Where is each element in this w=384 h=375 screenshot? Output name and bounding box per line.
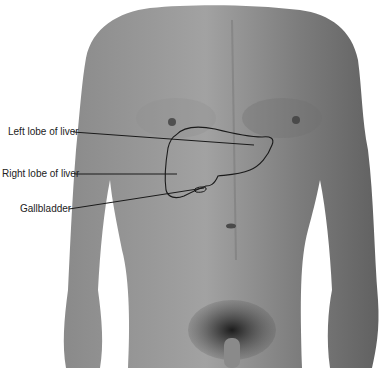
navel	[226, 224, 236, 229]
nipple-right	[168, 118, 176, 126]
label-left-lobe: Left lobe of liver	[8, 126, 79, 138]
body-illustration	[0, 0, 384, 375]
nipple-left	[292, 116, 300, 124]
anatomy-figure: Left lobe of liver Right lobe of liver G…	[0, 0, 384, 375]
label-gallbladder: Gallbladder	[20, 203, 71, 215]
label-right-lobe: Right lobe of liver	[2, 168, 79, 180]
